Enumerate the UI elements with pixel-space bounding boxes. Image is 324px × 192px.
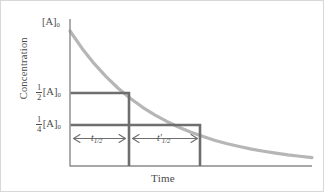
x-axis-title: Time <box>151 173 175 184</box>
half-life-figure: Concentration Time [A]0 1 2 [A]0 1 4 [A]… <box>0 0 324 192</box>
quarter-fraction: 1 4 <box>36 115 42 134</box>
half-fraction: 1 2 <box>36 83 42 102</box>
quarter-concentration-label: 1 4 [A]0 <box>36 115 61 134</box>
initial-bracket-text: [A] <box>42 16 57 27</box>
half-life-1-subscript: 1/2 <box>94 137 103 144</box>
half-life-2-label: t′1/2 <box>157 133 170 143</box>
half-concentration-bracket: [A]0 <box>43 87 61 98</box>
half-denominator: 2 <box>36 93 42 102</box>
y-axis-title: Concentration <box>19 13 30 123</box>
half-subscript: 0 <box>57 91 60 98</box>
quarter-numerator: 1 <box>36 115 42 125</box>
quarter-subscript: 0 <box>57 123 60 130</box>
half-numerator: 1 <box>36 83 42 93</box>
initial-concentration-label: [A]0 <box>42 17 60 28</box>
half-life-2-subscript: 1/2 <box>162 137 171 144</box>
initial-subscript: 0 <box>57 21 60 28</box>
quarter-bracket-text: [A] <box>43 118 58 129</box>
initial-concentration-bracket: [A]0 <box>42 17 60 28</box>
half-concentration-label: 1 2 [A]0 <box>36 83 61 102</box>
quarter-concentration-bracket: [A]0 <box>43 119 61 130</box>
half-life-1-label: t1/2 <box>91 133 102 143</box>
quarter-denominator: 4 <box>36 125 42 134</box>
half-bracket-text: [A] <box>43 86 58 97</box>
